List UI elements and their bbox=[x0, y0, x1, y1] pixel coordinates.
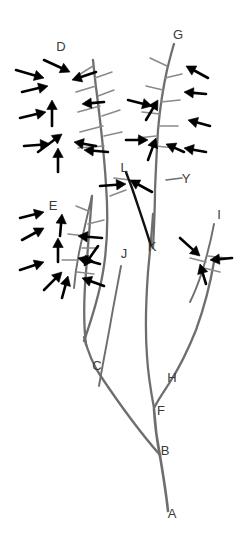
arrow-g-b bbox=[184, 88, 206, 98]
twig-g3 bbox=[146, 86, 163, 90]
arrow-e-j-head bbox=[61, 276, 71, 287]
arrow-g-h bbox=[184, 145, 206, 155]
tick-y bbox=[166, 178, 182, 180]
node-label-c: C bbox=[92, 358, 101, 373]
arrow-d-j-head bbox=[53, 148, 63, 158]
arrow-g-f bbox=[126, 135, 148, 145]
arrow-g-e bbox=[188, 118, 210, 128]
arrow-e-j-shaft bbox=[62, 285, 66, 298]
arrow-g-a-shaft bbox=[194, 71, 208, 79]
twig-d7 bbox=[80, 126, 103, 132]
arrow-g-i bbox=[166, 143, 184, 153]
plant-architecture-diagram: ABCDEFGHIJKLY bbox=[0, 0, 252, 549]
arrow-d-d-head bbox=[38, 83, 48, 93]
twig-d3 bbox=[76, 86, 96, 92]
arrow-d-g bbox=[47, 100, 57, 126]
arrow-g-h-head bbox=[184, 145, 194, 155]
arrow-e-i bbox=[44, 272, 62, 290]
node-label-g: G bbox=[173, 27, 183, 42]
arrow-e-c-shaft bbox=[22, 233, 36, 241]
arrow-l-b-head bbox=[116, 180, 126, 190]
arrow-e-c bbox=[22, 228, 44, 240]
arrow-g-a bbox=[186, 66, 208, 78]
arrow-g-e-shaft bbox=[197, 123, 210, 127]
arrow-e-j bbox=[61, 276, 71, 298]
twig-g1 bbox=[150, 58, 167, 66]
twig-d4 bbox=[98, 90, 114, 96]
arrow-g-b-head bbox=[184, 88, 194, 98]
arrow-e-g bbox=[20, 260, 44, 270]
arrow-e-e-head bbox=[53, 238, 63, 248]
arrow-g-i-shaft bbox=[175, 148, 184, 152]
arrow-l-a-shaft bbox=[138, 185, 152, 193]
node-label-f: F bbox=[157, 403, 165, 418]
twig-d2 bbox=[95, 72, 112, 78]
arrow-e-g-head bbox=[33, 260, 44, 270]
arrow-e-k-head bbox=[82, 276, 93, 286]
twig-d8 bbox=[104, 132, 122, 136]
arrow-g-g-shaft bbox=[148, 147, 153, 160]
arrow-e-b-head bbox=[56, 214, 66, 224]
twig-d6 bbox=[102, 110, 120, 116]
twig-i2 bbox=[190, 258, 206, 262]
ticks-group bbox=[166, 178, 182, 180]
arrow-g-e-head bbox=[188, 118, 199, 128]
arrow-l-b bbox=[100, 180, 126, 190]
twig-g2 bbox=[165, 74, 182, 78]
node-label-a: A bbox=[168, 506, 177, 521]
node-label-l: L bbox=[120, 160, 127, 175]
arrow-l-b-shaft bbox=[100, 185, 117, 186]
arrow-e-b-shaft bbox=[60, 224, 61, 237]
arrow-e-e bbox=[53, 238, 63, 262]
node-label-b: B bbox=[161, 443, 170, 458]
arrow-d-d bbox=[22, 83, 48, 93]
twig-e6 bbox=[77, 272, 94, 274]
arrow-d-i-shaft bbox=[24, 145, 41, 146]
arrow-d-g-head bbox=[47, 100, 57, 110]
arrow-e-a-head bbox=[34, 209, 45, 219]
plant-diagram-canvas: ABCDEFGHIJKLY bbox=[0, 0, 252, 549]
arrow-d-e-shaft bbox=[92, 102, 105, 103]
arrow-d-a bbox=[16, 70, 44, 80]
node-label-k: K bbox=[148, 239, 157, 254]
arrow-d-b bbox=[44, 60, 70, 73]
arrow-g-g-head bbox=[148, 138, 158, 149]
arrow-e-a-shaft bbox=[20, 214, 35, 218]
stems-group bbox=[74, 44, 214, 511]
arrow-g-c-shaft bbox=[128, 100, 143, 104]
arrow-d-i-head bbox=[40, 140, 50, 150]
arrow-e-i-shaft bbox=[44, 279, 55, 290]
arrow-d-f bbox=[20, 109, 46, 119]
arrow-e-b bbox=[56, 214, 66, 236]
node-label-e: E bbox=[49, 198, 58, 213]
arrow-g-d-shaft bbox=[146, 108, 153, 120]
arrow-d-f-shaft bbox=[20, 114, 37, 118]
arrow-d-d-shaft bbox=[22, 88, 39, 92]
arrow-d-b-shaft bbox=[44, 60, 61, 68]
arrow-g-h-shaft bbox=[193, 150, 206, 152]
arrow-d-f-head bbox=[36, 109, 46, 119]
arrow-i-c-shaft bbox=[203, 273, 206, 284]
arrow-e-d-shaft bbox=[88, 237, 103, 238]
arrow-d-j bbox=[53, 148, 63, 172]
node-label-h: H bbox=[167, 370, 176, 385]
stem-B-to-C-branch bbox=[84, 337, 160, 455]
arrow-g-c-head bbox=[142, 99, 153, 109]
arrow-e-a bbox=[20, 209, 44, 219]
arrow-g-c bbox=[128, 99, 152, 109]
node-label-i: I bbox=[217, 207, 221, 222]
twig-g4 bbox=[161, 100, 180, 102]
twig-l2 bbox=[110, 190, 126, 196]
arrow-d-l-shaft bbox=[94, 151, 109, 152]
arrow-d-i bbox=[24, 140, 50, 150]
arrow-d-e bbox=[82, 98, 104, 108]
arrow-g-b-shaft bbox=[194, 93, 207, 94]
stem-I-short bbox=[190, 224, 214, 302]
arrow-d-c bbox=[72, 72, 96, 82]
arrow-i-a bbox=[180, 238, 200, 256]
arrow-d-a-head bbox=[33, 70, 44, 80]
node-label-d: D bbox=[56, 39, 65, 54]
arrow-d-a-shaft bbox=[16, 70, 35, 75]
arrow-i-b-shaft bbox=[220, 258, 233, 259]
arrow-e-g-shaft bbox=[20, 265, 35, 270]
